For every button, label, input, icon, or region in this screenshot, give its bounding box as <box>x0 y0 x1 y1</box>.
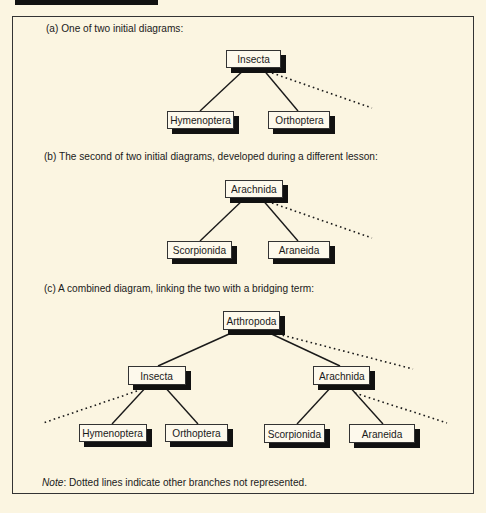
note-text: : Dotted lines indicate other branches n… <box>63 476 307 488</box>
node-arachnida: Arachnida <box>225 180 283 198</box>
node-scorpionida-combined: Scorpionida <box>264 424 325 443</box>
dotted-branch <box>43 391 137 423</box>
note-label: Note <box>42 476 63 488</box>
node-insecta-combined: Insecta <box>128 366 186 385</box>
caption-a: (a) One of two initial diagrams: <box>46 22 183 34</box>
dotted-branch <box>272 203 372 238</box>
node-araneida-combined: Araneida <box>349 424 415 443</box>
node-orthoptera: Orthoptera <box>268 111 330 129</box>
node-hymenoptera-combined: Hymenoptera <box>79 424 147 442</box>
node-orthoptera-combined: Orthoptera <box>165 424 228 442</box>
caption-b: (b) The second of two initial diagrams, … <box>44 150 378 162</box>
dotted-branch <box>278 334 413 369</box>
node-arthropoda: Arthropoda <box>223 311 280 330</box>
node-arachnida-combined: Arachnida <box>313 366 370 385</box>
dotted-branch <box>272 73 372 108</box>
caption-c: (c) A combined diagram, linking the two … <box>44 282 314 294</box>
footnote: Note: Dotted lines indicate other branch… <box>42 476 307 488</box>
node-araneida: Araneida <box>268 241 330 259</box>
node-insecta: Insecta <box>226 50 281 68</box>
node-hymenoptera: Hymenoptera <box>167 111 234 129</box>
node-scorpionida: Scorpionida <box>167 241 232 259</box>
